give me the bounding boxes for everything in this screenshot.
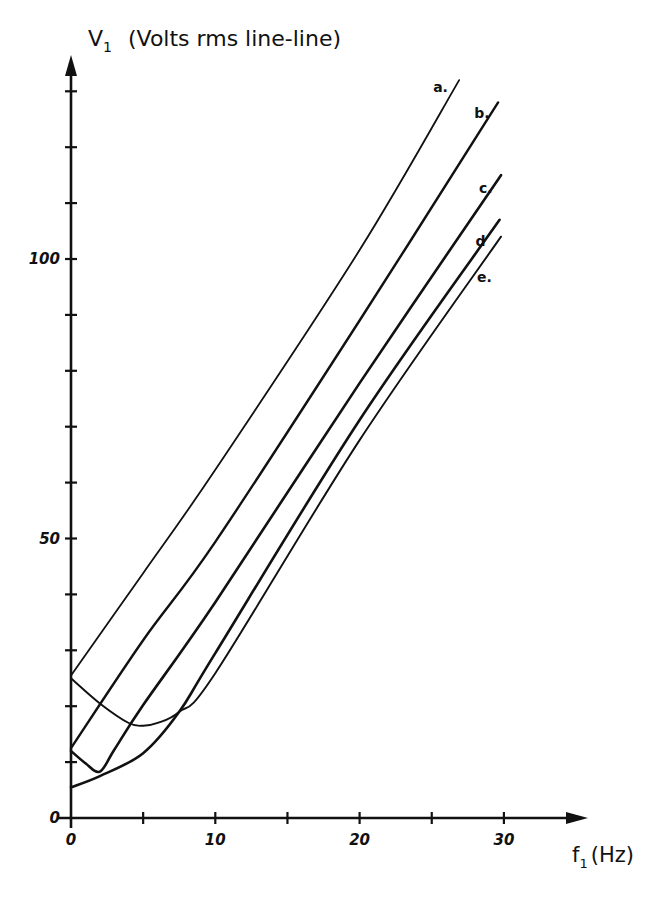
curve-label-b: b. [474, 105, 489, 121]
chart: 050100 V1(Volts rms line-line) 0102030 f… [0, 0, 670, 908]
curve-c [71, 175, 501, 772]
x-axis: 0102030 f1(Hz) [58, 812, 634, 871]
y-axis-arrow-icon [65, 55, 77, 76]
curve-d [71, 220, 500, 787]
curve-label-e: e. [477, 269, 492, 285]
x-axis-arrow-icon [566, 812, 588, 824]
y-axis-label: V1(Volts rms line-line) [88, 26, 341, 55]
y-tick-label: 100 [29, 250, 60, 268]
x-tick-label: 10 [205, 831, 226, 849]
curves: a.b.c.de. [71, 79, 501, 787]
curve-b [71, 102, 498, 748]
curve-label-a: a. [433, 79, 448, 95]
curve-label-d: d [476, 233, 486, 249]
x-tick-label: 30 [493, 831, 514, 849]
x-axis-label: f1(Hz) [572, 843, 634, 871]
x-tick-label: 0 [66, 831, 76, 849]
curve-label-c: c. [479, 180, 493, 196]
y-tick-label: 50 [39, 530, 60, 548]
x-tick-label: 20 [349, 831, 370, 849]
